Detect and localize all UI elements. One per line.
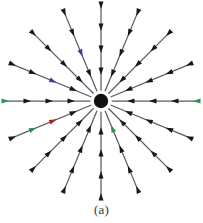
- figure-caption: (a): [94, 203, 109, 216]
- vector-field-plot: [0, 0, 203, 203]
- point-charge-dot: [94, 94, 108, 108]
- figure-radial-vector-field: (a): [0, 0, 203, 223]
- caption-bar: (a): [0, 196, 203, 223]
